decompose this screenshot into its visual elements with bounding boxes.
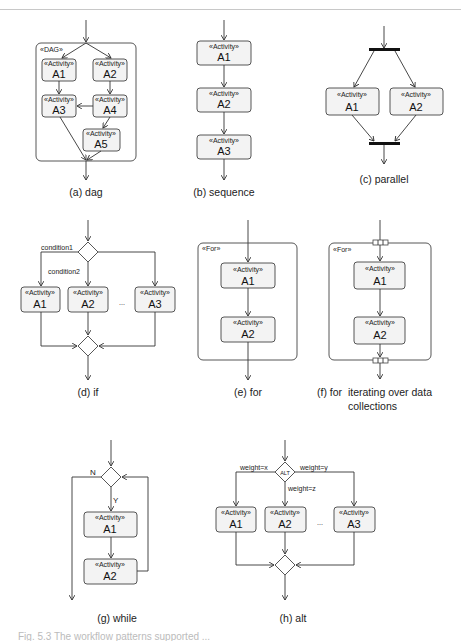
svg-text:«Activity»: «Activity» — [44, 60, 74, 68]
svg-text:A1: A1 — [52, 68, 65, 80]
svg-text:A3: A3 — [52, 104, 65, 116]
svg-text:«Activity»: «Activity» — [339, 509, 369, 517]
if-activity-a3: «Activity» A3 — [135, 287, 175, 312]
svg-text:A2: A2 — [103, 68, 116, 80]
alt-activity-a2: «Activity» A2 — [265, 507, 306, 532]
join-bar — [369, 142, 400, 145]
svg-text:«Activity»: «Activity» — [270, 509, 300, 517]
seq-activity-a3: «Activity» A3 — [197, 135, 251, 159]
if-condition2-label: condition2 — [48, 268, 80, 275]
dag-activity-a3: «Activity» A3 — [42, 95, 76, 117]
alt-merge — [275, 555, 295, 575]
caption-while: (g) while — [97, 612, 137, 624]
caption-for-data-line1: (f) for iterating over data — [317, 386, 432, 398]
for-activity-a1: «Activity» A1 — [221, 263, 275, 288]
output-pin — [373, 358, 388, 363]
while-decision — [101, 467, 121, 487]
while-no-label: N — [90, 468, 96, 477]
alt-decision-label: ALT — [280, 470, 290, 476]
if-condition1-label: condition1 — [41, 244, 73, 251]
if-decision — [78, 242, 98, 262]
alt-weight-y-label: weight=y — [299, 464, 328, 472]
ford-activity-a2: «Activity» A2 — [354, 317, 405, 344]
if-ellipsis: ... — [119, 299, 125, 306]
svg-text:A3: A3 — [148, 298, 161, 310]
alt-weight-z-label: weight=z — [287, 485, 316, 493]
svg-text:«Activity»: «Activity» — [337, 91, 367, 99]
svg-text:A1: A1 — [217, 51, 230, 63]
ford-activity-a1: «Activity» A1 — [354, 262, 405, 289]
svg-text:«Activity»: «Activity» — [209, 90, 239, 98]
caption-dag: (a) dag — [69, 186, 102, 198]
if-activity-a2: «Activity» A2 — [68, 287, 108, 312]
svg-text:A2: A2 — [278, 518, 291, 530]
caption-sequence: (b) sequence — [193, 186, 254, 198]
alt-activity-a3: «Activity» A3 — [334, 507, 375, 532]
svg-text:«Activity»: «Activity» — [140, 289, 170, 297]
svg-text:A2: A2 — [103, 570, 116, 582]
panel-parallel: «Activity» A1 «Activity» A2 (c) parallel — [326, 26, 443, 185]
panel-for: «For» «Activity» A1 «Activity» A2 (e) fo… — [198, 220, 297, 398]
svg-text:«Activity»: «Activity» — [86, 130, 116, 138]
panel-if: condition1 condition2 «Activity» A1 «Act… — [21, 220, 175, 398]
while-activity-a2: «Activity» A2 — [84, 559, 137, 584]
for-activity-a2: «Activity» A2 — [221, 317, 275, 342]
panel-dag: «DAG» «Activity» A1 «Activity» A2 «Activ… — [36, 20, 136, 198]
if-merge — [78, 336, 98, 356]
svg-text:«Activity»: «Activity» — [365, 265, 395, 273]
svg-text:A2: A2 — [217, 98, 230, 110]
fork-bar — [369, 48, 400, 51]
svg-text:A3: A3 — [217, 145, 230, 157]
workflow-patterns-diagram: «DAG» «Activity» A1 «Activity» A2 «Activ… — [0, 0, 461, 641]
seq-activity-a2: «Activity» A2 — [197, 88, 251, 112]
svg-text:«Activity»: «Activity» — [209, 43, 239, 51]
svg-text:«Activity»: «Activity» — [401, 91, 431, 99]
svg-text:«Activity»: «Activity» — [95, 96, 125, 104]
caption-parallel: (c) parallel — [359, 173, 408, 185]
svg-text:«Activity»: «Activity» — [95, 60, 125, 68]
svg-text:A1: A1 — [241, 275, 254, 287]
panel-sequence: «Activity» A1 «Activity» A2 «Activity» A… — [193, 20, 254, 198]
svg-text:«Activity»: «Activity» — [95, 514, 125, 522]
svg-text:A1: A1 — [229, 518, 242, 530]
svg-text:«Activity»: «Activity» — [209, 137, 239, 145]
svg-text:A1: A1 — [103, 523, 116, 535]
svg-text:A2: A2 — [373, 329, 386, 341]
svg-text:A2: A2 — [81, 298, 94, 310]
caption-alt: (h) alt — [280, 612, 307, 624]
dag-frame-label: «DAG» — [40, 46, 63, 53]
svg-text:A1: A1 — [33, 298, 46, 310]
for-data-frame-label: «For» — [333, 246, 351, 253]
svg-text:«Activity»: «Activity» — [233, 266, 263, 274]
alt-ellipsis: ... — [317, 519, 323, 526]
svg-text:A1: A1 — [373, 275, 386, 287]
svg-text:A3: A3 — [347, 518, 360, 530]
panel-alt: ALT weight=x weight=y weight=z «Activity… — [216, 440, 375, 624]
if-activity-a1: «Activity» A1 — [21, 287, 60, 312]
dag-activity-a5: «Activity» A5 — [83, 129, 120, 151]
dag-activity-a4: «Activity» A4 — [93, 95, 127, 117]
par-activity-a2: «Activity» A2 — [390, 88, 443, 115]
caption-if: (d) if — [78, 386, 99, 398]
svg-text:A4: A4 — [103, 104, 116, 116]
svg-text:A5: A5 — [94, 138, 107, 150]
for-frame-label: «For» — [202, 245, 220, 252]
svg-text:«Activity»: «Activity» — [221, 509, 251, 517]
panel-while: N Y «Activity» A1 «Activity» A2 (g) whil… — [72, 440, 148, 624]
while-yes-label: Y — [113, 496, 119, 505]
for-frame — [198, 243, 297, 360]
caption-for: (e) for — [234, 386, 263, 398]
svg-text:«Activity»: «Activity» — [44, 96, 74, 104]
input-pin — [373, 240, 388, 245]
alt-weight-x-label: weight=x — [239, 464, 268, 472]
svg-text:A2: A2 — [409, 101, 422, 113]
alt-activity-a1: «Activity» A1 — [216, 507, 256, 532]
dag-activity-a2: «Activity» A2 — [93, 59, 127, 81]
dag-activity-a1: «Activity» A1 — [42, 59, 76, 81]
seq-activity-a1: «Activity» A1 — [197, 41, 251, 65]
svg-text:A1: A1 — [345, 101, 358, 113]
panel-for-data: «For» «Activity» A1 «Activity» A2 (f) fo… — [317, 220, 432, 412]
figure-caption: Fig. 5.3 The workflow patterns supported… — [18, 631, 210, 641]
svg-text:A2: A2 — [241, 328, 254, 340]
par-activity-a1: «Activity» A1 — [326, 88, 379, 115]
